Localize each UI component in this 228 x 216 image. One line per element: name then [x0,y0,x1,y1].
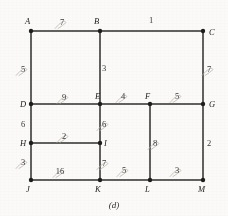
edge-weight-layer: 7153794566822371653 [21,15,211,176]
graph-node-dot-F [148,102,152,106]
edge-weight-EI: 6 [102,119,106,129]
graph-node-label-B: B [94,16,99,26]
graph-node-dot-J [29,178,33,182]
edge-weight-DH: 6 [21,119,25,129]
figure-canvas: 7153794566822371653 ABCDEFGHIJKLM (d) [0,0,228,216]
scribble-layer [16,21,213,177]
graph-node-dot-E [98,102,102,106]
edge-weight-FG: 5 [175,91,179,101]
edge-weight-BC: 1 [149,15,153,25]
graph-node-label-C: C [209,27,215,37]
graph-node-label-K: K [94,184,102,194]
graph-node-dot-K [98,178,102,182]
edge-layer [31,31,203,180]
graph-node-label-H: H [19,138,27,148]
edge-weight-IK: 7 [102,158,106,168]
weighted-graph-figure: 7153794566822371653 ABCDEFGHIJKLM (d) [0,0,228,216]
edge-weight-GM: 2 [207,138,211,148]
edge-weight-CG: 7 [207,64,211,74]
graph-node-label-L: L [144,184,150,194]
edge-weight-LM: 3 [175,165,179,175]
graph-node-label-M: M [197,184,206,194]
edge-weight-KL: 5 [122,165,126,175]
graph-node-label-J: J [26,184,31,194]
edge-weight-DE: 9 [62,92,66,102]
edge-weight-HJ: 3 [21,157,25,167]
edge-weight-EF: 4 [121,91,126,101]
edge-weight-BE: 3 [102,63,106,73]
graph-node-label-D: D [19,99,27,109]
graph-node-label-F: F [144,91,151,101]
edge-weight-AD: 5 [21,64,25,74]
graph-node-label-G: G [209,99,215,109]
edge-weight-HI: 2 [62,131,66,141]
edge-weight-AB: 7 [60,17,64,27]
figure-caption: (d) [109,200,120,210]
graph-node-dot-D [29,102,33,106]
graph-node-dot-I [98,141,102,145]
graph-node-dot-H [29,141,33,145]
node-layer: ABCDEFGHIJKLM [19,16,215,194]
graph-node-label-I: I [103,138,108,148]
edge-weight-FL: 8 [153,138,157,148]
edge-weight-JK: 16 [56,166,65,176]
graph-node-dot-M [201,178,205,182]
graph-node-dot-B [98,29,102,33]
graph-node-dot-A [29,29,33,33]
graph-node-dot-C [201,29,205,33]
graph-node-dot-L [148,178,152,182]
graph-node-dot-G [201,102,205,106]
graph-node-label-E: E [94,91,101,101]
graph-node-label-A: A [24,16,31,26]
